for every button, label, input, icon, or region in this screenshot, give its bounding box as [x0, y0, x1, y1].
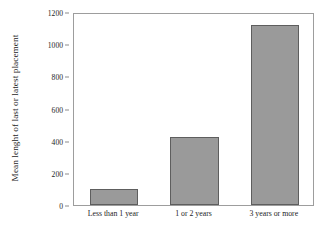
- bar-chart: Mean lenght of last or latest placement …: [0, 0, 331, 239]
- y-axis-title-text: Mean lenght of last or latest placement: [10, 34, 20, 181]
- y-axis-tick-label: 1200: [48, 9, 63, 18]
- y-axis-tick-mark: [65, 77, 69, 78]
- y-axis-tick-label: 1000: [48, 41, 63, 50]
- y-axis-tick-mark: [65, 206, 69, 207]
- x-axis-tick-label: 1 or 2 years: [175, 209, 212, 218]
- y-axis-tick-mark: [65, 45, 69, 46]
- y-axis-tick-mark: [65, 13, 69, 14]
- y-axis-tick-label: 600: [52, 105, 63, 114]
- y-axis-ticks: 020040060080010001200: [40, 13, 69, 206]
- y-axis-tick-label: 200: [52, 169, 63, 178]
- y-axis-tick-mark: [65, 109, 69, 110]
- bar: [170, 137, 218, 205]
- y-axis-title: Mean lenght of last or latest placement: [0, 0, 30, 215]
- x-axis-ticks: Less than 1 year1 or 2 years3 years or m…: [73, 209, 314, 225]
- plot-frame: [73, 13, 314, 206]
- x-axis-tick-label: 3 years or more: [249, 209, 298, 218]
- x-axis-tick-label: Less than 1 year: [88, 209, 139, 218]
- y-axis-tick-label: 400: [52, 137, 63, 146]
- y-axis-tick-label: 0: [59, 202, 63, 211]
- y-axis-tick-label: 800: [52, 73, 63, 82]
- plot-area: [74, 14, 313, 205]
- y-axis-tick-mark: [65, 173, 69, 174]
- bar: [90, 189, 138, 205]
- bar: [251, 25, 299, 205]
- y-axis-tick-mark: [65, 141, 69, 142]
